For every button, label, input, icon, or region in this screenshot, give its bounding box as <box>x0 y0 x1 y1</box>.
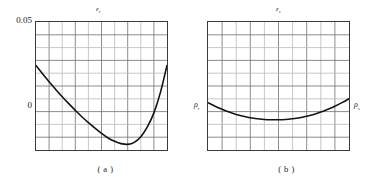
panel-b-rho-right-subscript: s <box>358 106 360 111</box>
panel-b-plot-svg <box>208 22 349 150</box>
figure-root: εr 0.05 0 ( a ) εs ρr ρs ( b ) <box>0 0 382 177</box>
panel-a-epsilon-subscript: r <box>99 9 101 14</box>
panel-b-left-rho-symbol: ρr <box>194 101 200 111</box>
panel-b-right-rho-symbol: ρs <box>354 101 360 111</box>
chart-panel-a: εr 0.05 0 ( a ) <box>0 0 191 177</box>
panel-a-ytick-top: 0.05 <box>0 16 32 25</box>
panel-b-epsilon-subscript: s <box>279 9 281 14</box>
panel-a-plot-svg <box>36 22 167 150</box>
panel-a-ytick-zero: 0 <box>0 101 32 110</box>
chart-panel-b: εs ρr ρs ( b ) <box>191 0 382 177</box>
panel-a-top-axis-symbol: εr <box>96 6 101 15</box>
panel-a-caption: ( a ) <box>10 165 201 174</box>
panel-b-plot-area <box>207 21 350 151</box>
panel-b-top-axis-symbol: εs <box>276 6 281 15</box>
panel-b-caption: ( b ) <box>191 165 382 174</box>
panel-a-plot-area <box>35 21 168 151</box>
panel-b-rho-left-subscript: r <box>198 106 200 111</box>
